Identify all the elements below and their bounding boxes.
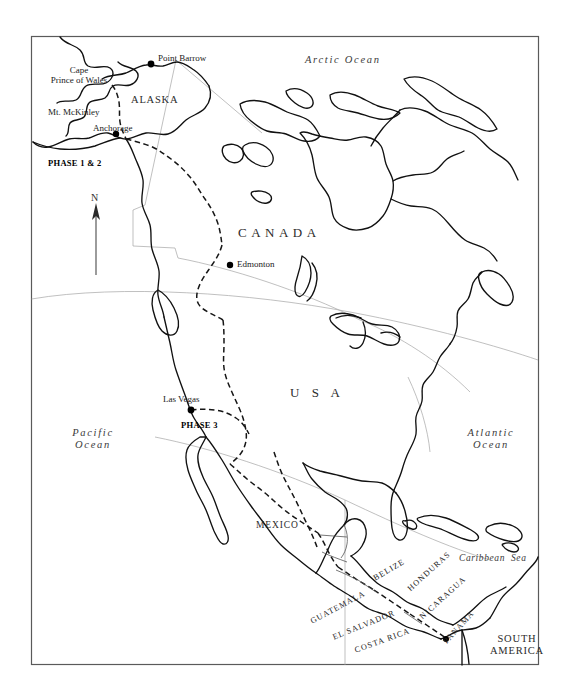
las-vegas-marker	[188, 407, 195, 414]
point-barrow-marker	[148, 61, 155, 68]
edmonton-marker	[227, 262, 233, 268]
panama-marker	[443, 636, 449, 642]
map-frame	[32, 37, 539, 665]
anchorage-marker	[113, 131, 119, 137]
map-canvas	[0, 0, 563, 698]
map-figure: Arctic Ocean Pacific Ocean Atlantic Ocea…	[0, 0, 563, 698]
